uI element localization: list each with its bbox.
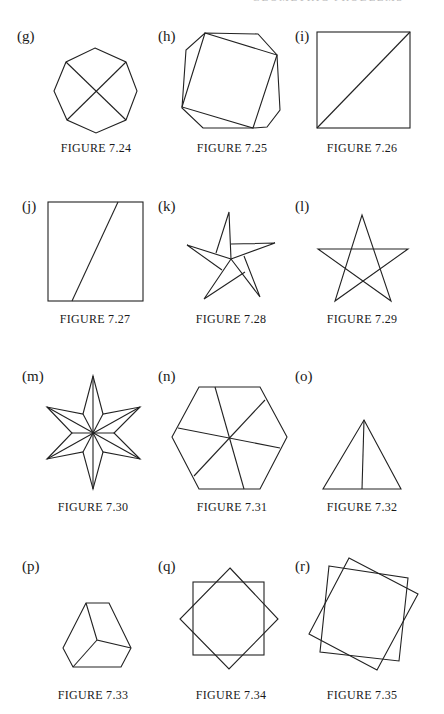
figure-7-25-octagon-square (182, 33, 280, 128)
figure-7-28-pinwheel-star (187, 212, 275, 299)
figure-7-35-tilted-squares (309, 558, 418, 670)
figures-canvas (0, 0, 444, 714)
figure-7-34-octagram (180, 568, 278, 669)
figure-7-32-triangle (323, 420, 401, 489)
figure-7-26-square-diagonal (317, 32, 410, 128)
figure-7-29-pentagram (318, 215, 408, 301)
figure-7-27-square-slant (48, 202, 143, 301)
figure-7-33-cube (63, 603, 131, 667)
figure-7-24-octagon (54, 48, 137, 133)
figure-7-31-hexagon (172, 387, 287, 489)
figure-7-30-six-point-star (47, 376, 140, 489)
